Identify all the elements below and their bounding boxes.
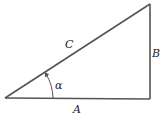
label-alpha: α (55, 79, 63, 92)
side-a-base (5, 98, 150, 99)
label-a: A (72, 103, 81, 116)
label-b: B (151, 47, 160, 60)
angle-arc-icon (46, 74, 53, 98)
label-c: C (65, 38, 74, 51)
triangle-diagram: C B A α (0, 0, 162, 118)
side-c-hypotenuse (5, 4, 150, 98)
